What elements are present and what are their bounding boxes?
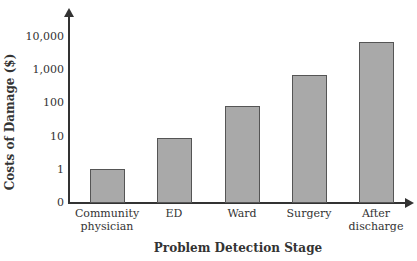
y-axis (68, 14, 70, 203)
y-tick: 100 (43, 96, 64, 109)
x-tick-label: Afterdischarge (336, 207, 416, 233)
bar (90, 169, 125, 203)
y-tick: 10 (50, 130, 64, 143)
y-tick: 1,000 (33, 63, 65, 76)
bar (359, 42, 394, 203)
y-tick: 10,000 (26, 30, 65, 43)
bar (157, 138, 192, 203)
x-axis-title: Problem Detection Stage (68, 241, 408, 255)
bar (225, 106, 260, 203)
y-tick: 1 (57, 163, 64, 176)
bar (292, 75, 327, 203)
y-tick: 0 (57, 196, 64, 209)
y-axis-title: Costs of Damage ($) (0, 0, 20, 240)
y-axis-arrow-icon (64, 8, 74, 17)
